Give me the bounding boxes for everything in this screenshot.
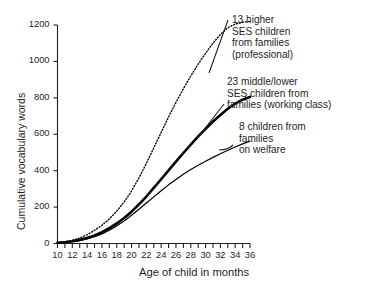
x-tick-label: 14 [80, 251, 94, 260]
x-axis-title: Age of child in months [139, 267, 249, 278]
y-axis-title: Cumulative vocabulary words [16, 93, 27, 230]
x-tick-label: 30 [199, 251, 213, 260]
x-axis-ticks [58, 244, 251, 249]
y-tick-label: 1000 [29, 56, 50, 65]
chart-plot-area [0, 0, 366, 290]
annotation-professional-line-1: 13 higher [232, 14, 293, 26]
series-line-professional [58, 21, 251, 242]
annotation-working-class-line-1: 23 middle/lower [227, 76, 331, 88]
x-tick-label: 16 [95, 251, 109, 260]
annotation-professional-line-2: SES children [232, 26, 293, 38]
annotation-professional-line-4: (professional) [232, 49, 293, 61]
x-tick-label: 12 [65, 251, 79, 260]
x-tick-label: 28 [184, 251, 198, 260]
y-tick-label: 600 [34, 129, 50, 138]
x-tick-label: 34 [228, 251, 242, 260]
y-tick-label: 800 [34, 93, 50, 102]
x-tick-label: 22 [139, 251, 153, 260]
series-line-working-class [58, 97, 251, 243]
x-tick-label: 20 [125, 251, 139, 260]
data-series-group [58, 21, 251, 243]
y-axis-ticks [54, 25, 58, 244]
annotation-professional: 13 higher SES children from families (pr… [232, 14, 293, 60]
vocabulary-growth-chart: 020040060080010001200 101214161820222426… [0, 0, 366, 290]
axes [58, 25, 251, 244]
annotation-working-class: 23 middle/lower SES children from famili… [227, 76, 331, 111]
annotation-working-class-line-2: SES children from [227, 88, 331, 100]
annotation-welfare-line-1: 8 children from [239, 121, 306, 133]
annotation-welfare: 8 children from families on welfare [239, 121, 306, 156]
leader-line-working-class [196, 104, 224, 140]
y-tick-label: 0 [44, 239, 49, 248]
leader-line-professional [209, 20, 228, 73]
y-tick-label: 1200 [29, 20, 50, 29]
annotation-welfare-line-2: families [239, 133, 306, 145]
x-tick-label: 32 [213, 251, 227, 260]
x-tick-label: 26 [169, 251, 183, 260]
y-tick-label: 400 [34, 166, 50, 175]
annotation-working-class-line-3: families (working class) [227, 99, 331, 111]
annotation-professional-line-3: from families [232, 37, 293, 49]
series-line-welfare [58, 141, 251, 243]
annotation-welfare-line-3: on welfare [239, 144, 306, 156]
x-tick-label: 24 [154, 251, 168, 260]
y-tick-label: 200 [34, 202, 50, 211]
x-tick-label: 10 [51, 251, 65, 260]
x-tick-label: 18 [110, 251, 124, 260]
x-tick-label: 36 [243, 251, 257, 260]
